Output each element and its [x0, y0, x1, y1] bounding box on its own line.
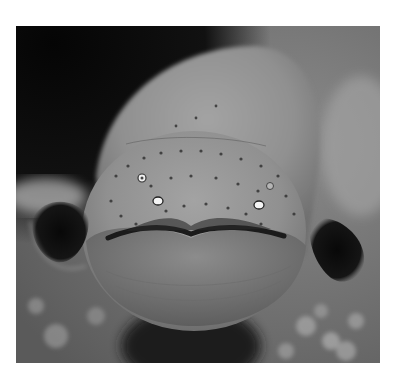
nostril-right [254, 201, 264, 209]
eel-illustration [16, 26, 380, 363]
eel-photo [16, 26, 380, 363]
eye-right [267, 183, 274, 190]
nostril-left [153, 197, 163, 205]
